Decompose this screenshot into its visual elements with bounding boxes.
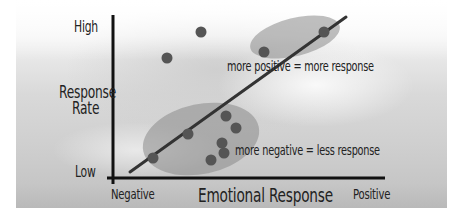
x-axis-title: Emotional Response <box>198 184 333 206</box>
data-point <box>259 47 270 58</box>
data-point <box>148 153 159 164</box>
data-point <box>162 53 173 64</box>
y-axis-low-label: Low <box>75 163 96 181</box>
y-axis-title-line2: Rate <box>72 98 99 118</box>
data-point <box>219 148 230 159</box>
data-point <box>221 111 232 122</box>
data-point <box>217 138 228 149</box>
data-point <box>183 129 194 140</box>
x-axis-negative-label: Negative <box>111 186 155 202</box>
highlight-region-negative <box>136 92 266 185</box>
annotation-negative: more negative = less response <box>235 142 380 158</box>
data-point <box>206 155 217 166</box>
data-point <box>196 27 207 38</box>
data-point <box>231 123 242 134</box>
annotation-positive: more positive = more response <box>227 58 374 74</box>
x-axis-positive-label: Positive <box>353 186 390 202</box>
data-point <box>319 27 330 38</box>
y-axis-high-label: High <box>74 18 98 36</box>
